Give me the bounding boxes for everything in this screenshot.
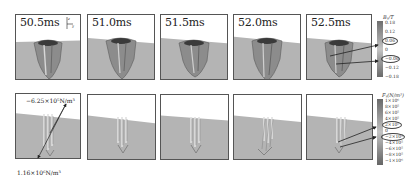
legend-tick: 0 [385, 128, 388, 133]
keyhole-pool-shape [88, 15, 155, 80]
snapshot-panel-bottom-5 [306, 94, 373, 160]
legend-tick: 0 [385, 47, 388, 52]
annotation-lower-force: 1.16×10⁶N/m³ [17, 169, 61, 176]
legend-tick: 1×10⁶ [385, 98, 399, 103]
legend-tick: 0.18 [385, 20, 395, 25]
snapshot-panel-top-5: 52.5ms [306, 14, 372, 80]
snapshot-panel-bottom-4 [233, 94, 302, 160]
colorbar [377, 21, 383, 77]
legend-tick: −6×10⁵ [385, 146, 403, 151]
legend-tick: 8×10⁵ [385, 104, 399, 109]
legend-tick: −1×10⁶ [385, 158, 403, 163]
snapshot-panel-top-2: 51.0ms [87, 14, 155, 80]
highlight-circle [381, 55, 400, 63]
svg-text:z: z [67, 17, 70, 21]
legend-fy: Fᵧ(N/m³) 1×10⁶ 8×10⁵ 6×10⁵ 4×10⁵ 2×10⁵ 0… [374, 92, 420, 172]
force-vector-field [307, 95, 373, 160]
legend-tick: −8×10⁵ [385, 152, 403, 157]
annotation-upper-force: −6.25×10⁵N/m³ [26, 97, 75, 104]
snapshot-panel-top-4: 52.0ms [233, 14, 301, 80]
snapshot-panel-top-1: 50.5ms z y [15, 14, 81, 80]
legend-tick: 0.12 [385, 29, 395, 34]
force-vector-field [88, 95, 156, 160]
highlight-circle [382, 37, 398, 45]
keyhole-pool-shape [307, 15, 372, 80]
force-vector-field [234, 95, 302, 160]
svg-text:y: y [71, 24, 75, 28]
axes-icon: z y [63, 15, 75, 31]
snapshot-panel-top-3: 51.5ms [160, 14, 228, 80]
legend-by: Bᵧ/T 0.18 0.12 0.06 0 −0.06 −0.12 −0.18 [375, 14, 420, 82]
force-vector-field [161, 95, 229, 160]
legend-tick: −0.18 [385, 74, 399, 79]
snapshot-panel-bottom-2 [87, 94, 156, 160]
keyhole-pool-shape [234, 15, 301, 80]
snapshot-panel-bottom-3 [160, 94, 229, 160]
legend-tick: −4×10⁵ [385, 140, 403, 145]
colorbar [377, 99, 383, 165]
legend-tick: −0.12 [385, 65, 399, 70]
keyhole-pool-shape [161, 15, 228, 80]
legend-tick: 6×10⁵ [385, 110, 399, 115]
